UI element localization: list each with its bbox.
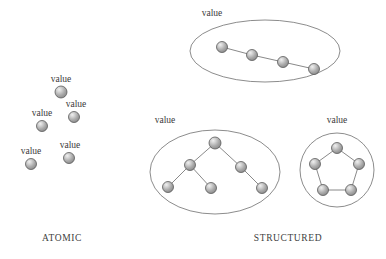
node-sphere-c3 — [278, 57, 289, 68]
value-label-a3: value — [66, 99, 87, 109]
node-sphere-r2 — [354, 159, 365, 170]
node-sphere-a2 — [37, 121, 48, 132]
value-label-a5: value — [60, 140, 81, 150]
value-label-structured-tree: value — [155, 115, 176, 125]
node-sphere-t3 — [236, 162, 247, 173]
node-sphere-a5 — [64, 153, 75, 164]
node-sphere-t5 — [206, 183, 217, 194]
value-label-a2: value — [32, 108, 53, 118]
nodes-layer — [26, 42, 365, 196]
node-sphere-c1 — [217, 42, 228, 53]
diagram-canvas: valuevaluevaluevaluevaluevaluevaluevalue… — [0, 0, 386, 259]
diagram-svg: valuevaluevaluevaluevaluevaluevaluevalue… — [0, 0, 386, 259]
caption-atomic: ATOMIC — [42, 233, 82, 243]
node-sphere-t6 — [257, 183, 268, 194]
node-sphere-r1 — [332, 143, 343, 154]
value-label-a4: value — [21, 146, 42, 156]
node-sphere-r4 — [318, 185, 329, 196]
node-sphere-r5 — [310, 159, 321, 170]
node-sphere-t1 — [209, 137, 221, 149]
node-sphere-t4 — [163, 182, 174, 193]
node-sphere-a1 — [55, 86, 67, 98]
node-sphere-r3 — [346, 185, 357, 196]
value-label-a1: value — [51, 74, 72, 84]
node-sphere-t2 — [185, 160, 196, 171]
node-sphere-a4 — [26, 159, 37, 170]
caption-structured: STRUCTURED — [254, 233, 322, 243]
value-label-structured-chain: value — [202, 8, 223, 18]
labels-layer: valuevaluevaluevaluevaluevaluevaluevalue — [21, 8, 348, 156]
node-sphere-c4 — [309, 64, 320, 75]
value-label-structured-ring: value — [327, 115, 348, 125]
node-sphere-a3 — [69, 112, 80, 123]
node-sphere-c2 — [247, 50, 258, 61]
